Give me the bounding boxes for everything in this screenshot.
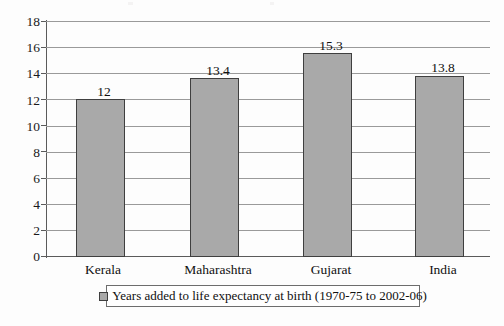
bar-india[interactable] <box>415 76 464 257</box>
y-tick-label-6: 6 <box>14 172 40 185</box>
bar-kerala[interactable] <box>76 99 125 257</box>
scan-artifact <box>270 2 274 5</box>
gridline-16 <box>46 47 490 48</box>
y-tick-label-0: 0 <box>14 250 40 263</box>
category-label-india: India <box>368 263 504 277</box>
scan-artifact <box>128 2 133 5</box>
bar-value-gujarat: 15.3 <box>283 39 379 53</box>
bar-value-maharashtra: 13.4 <box>170 64 266 78</box>
bar-chart: 18 16 14 12 10 8 6 4 2 0 12 13.4 15.3 13… <box>0 0 504 326</box>
y-tick-label-8: 8 <box>14 146 40 159</box>
bar-value-kerala: 12 <box>56 85 152 99</box>
chart-legend[interactable]: Years added to life expectancy at birth … <box>106 285 420 307</box>
y-tick-label-14: 14 <box>14 67 40 80</box>
bar-value-india: 13.8 <box>395 61 491 75</box>
bar-maharashtra[interactable] <box>190 78 239 257</box>
y-tick-label-12: 12 <box>14 94 40 107</box>
y-tick-label-2: 2 <box>14 224 40 237</box>
y-tick-label-10: 10 <box>14 120 40 133</box>
bar-gujarat[interactable] <box>303 53 352 257</box>
y-tick-label-16: 16 <box>14 41 40 54</box>
y-tick-label-4: 4 <box>14 198 40 211</box>
legend-label: Years added to life expectancy at birth … <box>112 289 427 303</box>
gridline-18 <box>46 21 490 22</box>
legend-swatch-icon <box>99 292 108 301</box>
y-tick-label-18: 18 <box>14 15 40 28</box>
plot-area <box>46 21 490 257</box>
